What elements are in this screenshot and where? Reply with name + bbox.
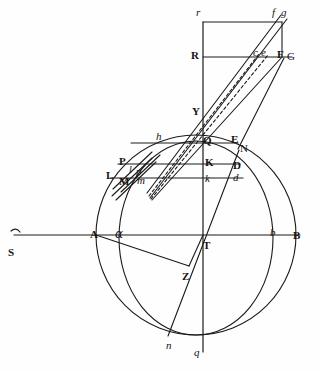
- point-label-T: T: [203, 240, 210, 251]
- point-label-D: D: [233, 160, 241, 171]
- point-label-R: R: [191, 50, 199, 61]
- point-label-F: F: [277, 49, 284, 60]
- point-label-g: g: [281, 7, 287, 18]
- ray-Y-c: [149, 54, 259, 196]
- point-label-A: A: [90, 229, 98, 240]
- point-label-L: L: [106, 170, 113, 181]
- point-label-q: q: [194, 347, 200, 358]
- point-label-alpha: α: [115, 228, 123, 240]
- point-label-k: k: [205, 173, 210, 184]
- point-label-Q: Q: [203, 135, 212, 146]
- sun-arc-marker: [11, 229, 20, 232]
- point-label-B: B: [293, 230, 300, 241]
- inner-ellipse: [119, 141, 273, 335]
- point-label-r: r: [196, 7, 200, 18]
- figure-root: rfgRceFGYhQENPKDLlpMmkdAαTbBSZnq: [0, 0, 320, 371]
- point-label-m: m: [137, 175, 145, 186]
- point-label-Z: Z: [182, 271, 189, 282]
- point-label-f: f: [272, 7, 275, 18]
- diagram-canvas: [0, 0, 320, 371]
- point-label-h: h: [156, 131, 162, 142]
- point-label-e: e: [261, 47, 266, 58]
- point-label-l: l: [129, 165, 132, 175]
- point-label-K: K: [205, 157, 214, 168]
- point-label-n: n: [166, 340, 172, 351]
- point-label-Y: Y: [192, 106, 200, 117]
- point-label-G: G: [287, 51, 295, 62]
- point-label-d: d: [233, 172, 239, 183]
- point-label-M: M: [119, 176, 129, 187]
- point-label-S: S: [8, 247, 14, 258]
- ray-Y-g: [150, 19, 287, 198]
- point-label-P: P: [119, 156, 126, 167]
- point-label-E: E: [231, 134, 238, 145]
- point-label-b: b: [270, 227, 276, 238]
- line-A-Z: [96, 235, 189, 266]
- point-label-N: N: [240, 143, 248, 154]
- point-label-c: c: [253, 47, 258, 58]
